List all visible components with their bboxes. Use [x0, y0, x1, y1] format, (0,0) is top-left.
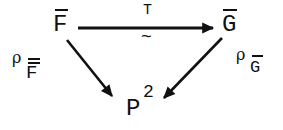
rho-subscript-F: F: [26, 64, 37, 83]
rho-symbol: ρ: [236, 47, 245, 63]
arrow-left-F-to-P2: [67, 40, 112, 96]
node-P-superscript: 2: [143, 83, 154, 101]
arrow-label-T: T: [143, 3, 152, 18]
overline: [28, 58, 40, 60]
rho-symbol: ρ: [12, 50, 21, 66]
arrow-right-G-to-P2: [164, 38, 222, 98]
arrow-label-tilde: ~: [141, 28, 152, 46]
node-P-label: P: [126, 97, 140, 121]
rho-subscript-G: G: [250, 59, 260, 76]
overline: [252, 55, 263, 57]
commutative-diagram: F G T ~ ρ F ρ G P 2: [0, 0, 283, 130]
node-G-label: G: [222, 13, 236, 37]
node-F-label: F: [53, 13, 67, 37]
diagram-arrows: [0, 0, 283, 130]
